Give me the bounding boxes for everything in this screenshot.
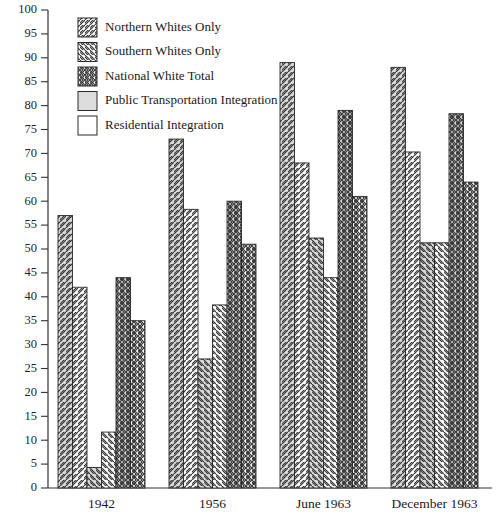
bar [73,287,88,488]
y-tick-label: 60 [25,194,38,208]
legend-swatch-residential [78,116,97,135]
bar [406,152,421,488]
bar [464,182,479,488]
y-tick-label: 15 [25,409,38,423]
y-tick-label: 65 [25,170,38,184]
y-tick-label: 50 [25,241,38,255]
legend-swatch-public-transportation [78,92,97,111]
y-tick-label: 5 [31,456,37,470]
bar [227,201,242,488]
y-tick-label: 75 [25,122,38,136]
bar [131,321,146,488]
bar [242,244,257,488]
y-tick-label: 90 [25,50,38,64]
chart-legend: Northern Whites OnlySouthern Whites Only… [78,18,278,135]
bar [338,110,353,488]
legend-label: Residential Integration [105,117,224,132]
y-tick-label: 25 [25,361,38,375]
bar [198,359,213,488]
bar [87,467,102,488]
y-tick-label: 0 [31,480,37,494]
y-tick-label: 10 [25,433,38,447]
legend-swatch-southern [78,43,97,62]
chart-canvas: 0510152025303540455055606570758085909510… [0,0,500,530]
y-tick-label: 95 [25,26,38,40]
bar-chart: 0510152025303540455055606570758085909510… [0,0,500,530]
y-tick-label: 35 [25,313,38,327]
bar [324,278,339,488]
legend-swatch-northern [78,18,97,37]
y-tick-label: 100 [18,2,37,16]
y-tick-label: 55 [25,217,38,231]
legend-label: Northern Whites Only [105,19,222,34]
bar [420,243,435,488]
bar [102,432,117,488]
y-tick-label: 40 [25,289,38,303]
bar [58,216,73,488]
y-tick-label: 80 [25,98,38,112]
y-tick-label: 30 [25,337,38,351]
y-axis: 0510152025303540455055606570758085909510… [18,2,48,494]
bar [184,209,199,488]
y-tick-label: 20 [25,385,38,399]
legend-label: National White Total [105,68,214,83]
bar [353,196,368,488]
bar [116,278,131,488]
y-tick-label: 85 [25,74,38,88]
legend-label: Southern Whites Only [105,43,222,58]
x-category-label: 1942 [88,496,115,511]
bar [295,163,310,488]
legend-swatch-national [78,67,97,86]
bar [391,67,406,488]
bar [213,305,228,488]
y-tick-label: 70 [25,146,38,160]
x-category-label: June 1963 [296,496,351,511]
x-category-label: December 1963 [392,496,478,511]
y-tick-label: 45 [25,265,38,279]
bar [449,114,464,488]
bar [309,238,324,488]
bar [280,63,295,488]
legend-label: Public Transportation Integration [105,92,278,107]
category-labels: 19421956June 1963December 1963 [88,496,478,511]
bar [169,139,184,488]
bar [435,243,450,488]
x-category-label: 1956 [199,496,226,511]
